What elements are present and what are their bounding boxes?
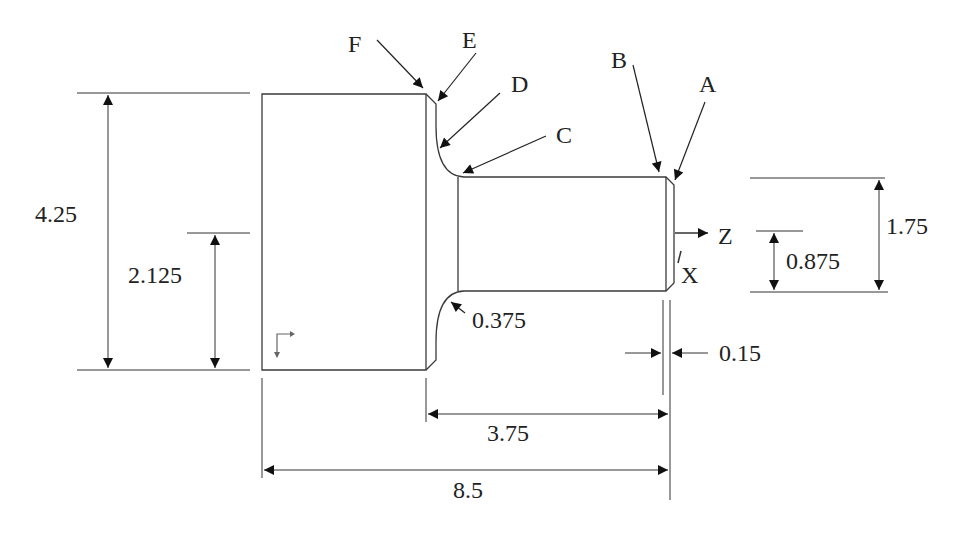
leader-A: [675, 102, 705, 180]
dim-label-1-75: 1.75: [886, 213, 928, 239]
point-label-D: D: [511, 71, 528, 97]
dimension-shoulder-length: 3.75: [426, 378, 668, 446]
dimension-overall-radius: 2.125: [128, 233, 250, 368]
dim-label-2-125: 2.125: [128, 262, 182, 288]
dimension-small-diameter: 1.75: [750, 178, 928, 292]
dim-label-0-375: 0.375: [472, 307, 526, 333]
dimension-small-radius: 0.875: [756, 231, 840, 290]
point-E: E: [462, 27, 477, 53]
point-A: A: [699, 71, 717, 97]
point-label-A: A: [699, 71, 717, 97]
coordinate-system-icon: [274, 331, 295, 358]
z-axis-label: Z: [718, 223, 733, 249]
point-B: B: [611, 47, 627, 73]
part-outline: [262, 94, 674, 370]
dim-label-8-5: 8.5: [453, 477, 483, 503]
leader-C: [463, 136, 546, 173]
dim-label-0-15: 0.15: [719, 340, 761, 366]
leader-F: [377, 40, 423, 88]
large-diameter-body: [262, 94, 674, 370]
leader-E: [438, 53, 476, 101]
dimension-overall-diameter: 4.25: [35, 93, 250, 370]
x-axis: X: [678, 251, 698, 288]
dim-label-0-875: 0.875: [786, 248, 840, 274]
z-axis: Z: [675, 223, 733, 249]
point-C: C: [556, 122, 572, 148]
leader-D: [440, 93, 500, 148]
dimension-overall-length: 8.5: [262, 378, 668, 503]
point-F: F: [348, 31, 361, 57]
point-label-B: B: [611, 47, 627, 73]
part-drawing: 4.25 2.125 1.75 0.875 Z X 0.375 0.15: [0, 0, 964, 539]
dim-label-4-25: 4.25: [35, 201, 77, 227]
point-label-C: C: [556, 122, 572, 148]
dimension-fillet-radius: 0.375: [451, 302, 526, 333]
dim-label-3-75: 3.75: [487, 420, 529, 446]
leader-B: [633, 65, 659, 172]
point-label-E: E: [462, 27, 477, 53]
point-D: D: [511, 71, 528, 97]
x-axis-label: X: [681, 262, 698, 288]
point-label-F: F: [348, 31, 361, 57]
